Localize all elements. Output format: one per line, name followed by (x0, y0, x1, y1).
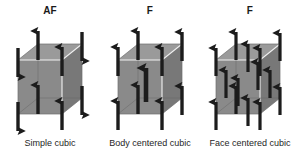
cube-diagram-face-centered-cubic (200, 18, 300, 136)
cube-solid (118, 44, 182, 114)
cell-ordering-label-face-centered-cubic: F (200, 5, 300, 16)
cube-diagram-simple-cubic (0, 18, 100, 136)
cell-name-label-simple-cubic: Simple cubic (0, 138, 100, 149)
lattice-cell-body-centered-cubic: F (100, 0, 200, 153)
cube-solid (18, 44, 82, 114)
cell-name-label-body-centered-cubic: Body centered cubic (100, 138, 200, 149)
cell-name-label-face-centered-cubic: Face centered cubic (200, 138, 300, 149)
lattice-cell-simple-cubic: AF (0, 0, 100, 153)
cube-diagram-body-centered-cubic (100, 18, 200, 136)
cell-ordering-label-body-centered-cubic: F (100, 5, 200, 16)
cell-ordering-label-simple-cubic: AF (0, 5, 100, 16)
lattice-figure: AF (0, 0, 300, 153)
lattice-cell-face-centered-cubic: F (200, 0, 300, 153)
